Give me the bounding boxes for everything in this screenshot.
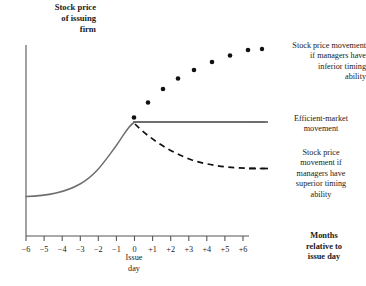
x-tick-label-plus5: +5 (215, 245, 235, 254)
x-tick-label-minus3: −3 (70, 245, 90, 254)
x-tick-label-plus4: +4 (197, 245, 217, 254)
series-inferior-timing-dots (132, 48, 251, 120)
series-superior-timing-dashed (135, 124, 265, 169)
x-tick-label-plus6: +6 (233, 245, 253, 254)
series-preissue-curve (26, 123, 134, 197)
x-tick-label-plus2: +2 (161, 245, 181, 254)
x-axis-issue-day-label: Issue day (105, 252, 163, 274)
x-axis-title: Months relative to issue day (282, 231, 366, 263)
stock-price-timing-chart: Stock price of issuing firm Stock price … (0, 0, 366, 286)
x-tick-label-minus4: −4 (52, 245, 72, 254)
x-tick-label-minus6: −6 (16, 245, 36, 254)
x-axis-ticks (26, 236, 243, 241)
annotation-efficient-market: Efficient-market movement (276, 114, 366, 135)
annotation-inferior-timing: Stock price movement if managers have in… (266, 41, 366, 83)
y-axis-title: Stock price of issuing firm (0, 2, 96, 36)
annotation-superior-timing: Stock price movement if managers have su… (276, 148, 366, 200)
legend-marker-dot (260, 47, 264, 51)
x-tick-label-minus5: −5 (34, 245, 54, 254)
x-tick-label-plus3: +3 (179, 245, 199, 254)
